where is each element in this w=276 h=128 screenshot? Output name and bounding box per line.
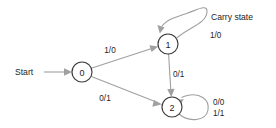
transition-0-to-1-label: 1/0 [104,46,116,55]
self-loop-state-1 [157,8,207,38]
state-node-1-label: 1 [165,40,170,50]
self-loop-state-1-label: 1/0 [210,31,222,40]
fsm-diagram-canvas: Start 1/0 0/1 0/1 1/0 0/0 [0,0,276,128]
transition-0-to-2-arrowhead-icon [152,100,162,107]
start-arrow-group [44,68,72,75]
state-node-2-label: 2 [169,103,174,113]
carry-state-annotation: Carry state [211,12,253,22]
self-loop-state-1-arrowhead-icon [157,25,164,33]
transition-0-to-1-line [91,49,151,68]
state-node-0-label: 0 [79,68,84,78]
transition-0-to-1 [91,45,158,68]
transition-1-to-2-label: 0/1 [173,70,185,79]
start-label: Start [15,67,34,77]
self-loop-state-2-path [179,95,209,120]
transition-0-to-2-label: 0/1 [99,94,111,103]
state-node-1[interactable]: 1 [158,34,178,54]
transition-1-to-2-arrowhead-icon [167,89,174,97]
start-arrowhead-icon [64,68,72,75]
state-node-2[interactable]: 2 [162,97,182,117]
self-loop-state-2-label-line1: 0/0 [213,98,225,107]
transition-1-to-2-line [169,54,171,90]
fsm-diagram-svg: Start 1/0 0/1 0/1 1/0 0/0 [0,0,276,128]
state-node-0[interactable]: 0 [72,62,92,82]
self-loop-state-2-label-line2: 1/1 [213,109,225,118]
transition-0-to-1-arrowhead-icon [149,45,158,52]
